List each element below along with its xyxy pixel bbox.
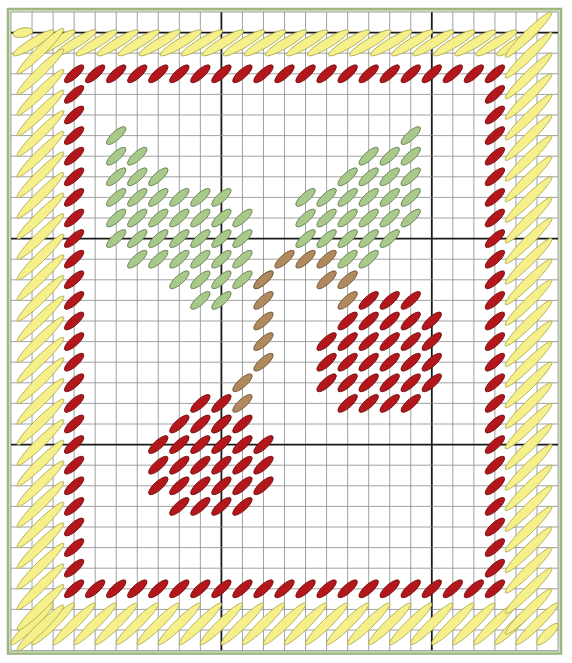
- grid-lines: [11, 12, 558, 651]
- yellow-border-stitch: [12, 26, 34, 39]
- needlepoint-chart: Cherry needlepoint chart: [0, 0, 572, 663]
